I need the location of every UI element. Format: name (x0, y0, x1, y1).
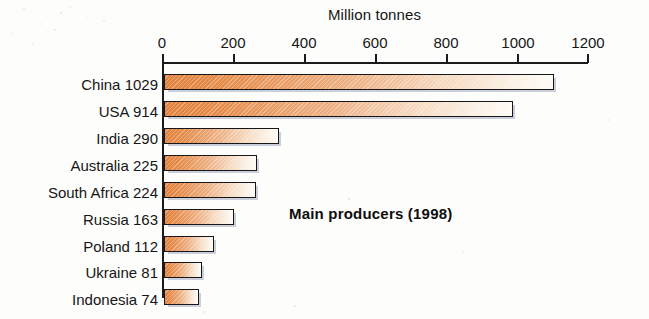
x-tick-label-400: 400 (291, 34, 316, 51)
x-tick-mark-800 (446, 54, 448, 63)
bar-china (164, 74, 554, 90)
bar-poland (164, 236, 214, 252)
bar-usa (164, 101, 513, 117)
x-tick-mark-1000 (517, 54, 519, 63)
bar-russia (164, 209, 234, 225)
x-tick-mark-200 (233, 54, 235, 63)
x-axis-title: Million tonnes (162, 6, 587, 23)
x-tick-label-0: 0 (158, 34, 166, 51)
row-label-south-africa: South Africa 224 (48, 184, 158, 201)
row-label-russia: Russia 163 (83, 211, 158, 228)
row-label-indonesia: Indonesia 74 (72, 291, 158, 308)
bar-india (164, 128, 279, 144)
x-tick-label-600: 600 (362, 34, 387, 51)
row-label-poland: Poland 112 (83, 238, 158, 255)
row-label-usa: USA 914 (99, 103, 158, 120)
x-tick-mark-600 (375, 54, 377, 63)
bar-australia (164, 155, 257, 171)
bar-chart: Million tonnes 0 200 400 600 800 1000 12… (0, 0, 649, 319)
x-tick-label-1000: 1000 (501, 34, 534, 51)
x-tick-mark-400 (304, 54, 306, 63)
x-tick-mark-1200 (587, 54, 589, 63)
row-label-china: China 1029 (81, 76, 158, 93)
row-label-india: India 290 (96, 130, 158, 147)
chart-annotation: Main producers (1998) (289, 205, 452, 222)
bar-ukraine (164, 262, 202, 278)
x-tick-label-1200: 1200 (571, 34, 604, 51)
bar-south-africa (164, 182, 256, 198)
row-label-australia: Australia 225 (70, 157, 158, 174)
x-tick-label-800: 800 (433, 34, 458, 51)
bar-indonesia (164, 289, 199, 305)
x-tick-mark-0 (162, 54, 164, 63)
row-label-ukraine: Ukraine 81 (85, 264, 158, 281)
x-tick-label-200: 200 (220, 34, 245, 51)
